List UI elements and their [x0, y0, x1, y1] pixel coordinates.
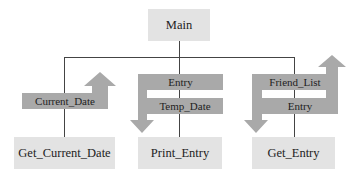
flow-entry-2: Entry [262, 98, 338, 114]
flow-temp-date: Temp_Date [147, 98, 223, 114]
flow-entry: Entry [138, 74, 223, 90]
flow-friend-list: Friend_List [252, 74, 338, 90]
module-print-entry: Print_Entry [138, 137, 222, 169]
module-get-current-date: Get_Current_Date [14, 137, 115, 169]
module-main: Main [148, 9, 210, 41]
module-get-entry: Get_Entry [252, 137, 335, 169]
flow-current-date: Current_Date [22, 93, 108, 109]
